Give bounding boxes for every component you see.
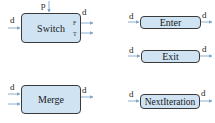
next-iteration-label: NextIteration [145,97,196,107]
enter-node: Enter [140,16,201,29]
enter-input-d-label: d [129,12,134,21]
switch-out-false-label: F [73,20,76,26]
next-iteration-output-d-label: d [201,89,206,98]
switch-output-d-label: d [82,8,87,17]
merge-input-d-label: d [10,83,15,92]
exit-node: Exit [141,50,200,63]
merge-output-d-label: d [82,86,87,95]
merge-label: Merge [38,94,64,105]
switch-input-d-label: d [10,16,15,25]
switch-label: Switch [37,23,65,34]
switch-input-p-label: p [41,1,46,10]
merge-node: Merge [21,85,81,114]
enter-output-d-label: d [202,11,207,20]
exit-input-d-label: d [129,46,134,55]
enter-label: Enter [160,17,182,28]
next-iteration-node: NextIteration [140,94,200,109]
exit-output-d-label: d [202,45,207,54]
next-iteration-input-d-label: d [129,90,134,99]
switch-out-true-label: T [73,31,77,37]
switch-node: Switch [21,13,81,43]
exit-label: Exit [162,51,179,62]
